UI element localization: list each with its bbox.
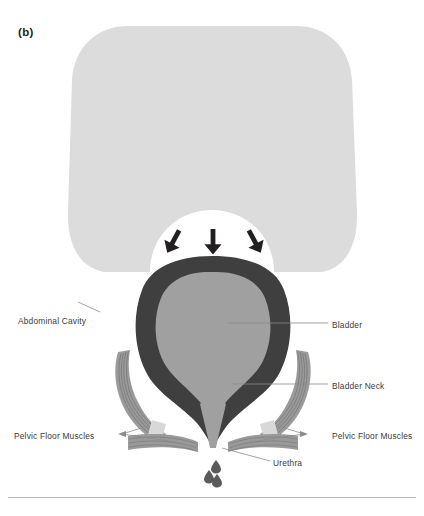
arrowhead-pfm-right bbox=[300, 431, 308, 437]
arrow-down-icon bbox=[204, 229, 221, 255]
droplet-icon-1 bbox=[211, 460, 221, 474]
label-abdominal-cavity: Abdominal Cavity bbox=[18, 316, 86, 326]
arrowhead-pfm-left bbox=[118, 431, 126, 437]
label-bladder-neck: Bladder Neck bbox=[332, 381, 384, 391]
label-pelvic-floor-muscles-right: Pelvic Floor Muscles bbox=[332, 431, 412, 441]
pressure-arrows-group bbox=[160, 226, 269, 257]
label-bladder: Bladder bbox=[332, 320, 362, 330]
bottom-divider bbox=[8, 497, 416, 498]
label-urethra: Urethra bbox=[273, 458, 302, 468]
leader-urethra bbox=[222, 448, 270, 461]
droplet-icon-3 bbox=[212, 474, 222, 488]
urine-droplets-group bbox=[204, 460, 222, 488]
figure-panel-b: (b) bbox=[0, 0, 424, 516]
label-pelvic-floor-muscles-left: Pelvic Floor Muscles bbox=[14, 431, 94, 441]
leader-abdominal-cavity bbox=[78, 302, 100, 312]
